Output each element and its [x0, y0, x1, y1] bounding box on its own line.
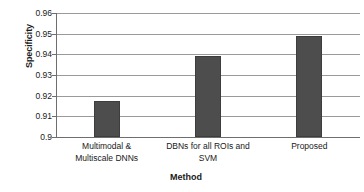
x-axis-category-label-line: Multimodal &: [56, 141, 157, 153]
y-axis-tick-label: 0.9: [24, 133, 52, 142]
y-axis-tick-mark: [52, 75, 56, 76]
bar: [195, 56, 221, 137]
y-axis-tick-mark: [52, 34, 56, 35]
y-axis-tick-label: 0.92: [24, 91, 52, 100]
y-axis-tick-mark: [52, 13, 56, 14]
x-axis-category-label-line: SVM: [157, 153, 258, 165]
y-axis-tick-labels: 0.90.910.920.930.940.950.96: [24, 13, 52, 137]
x-axis-category-label-line: Multiscale DNNs: [56, 153, 157, 165]
y-axis-tick-mark: [52, 137, 56, 138]
x-axis-category-label: Proposed: [259, 141, 360, 153]
y-axis-tick-mark: [52, 96, 56, 97]
x-axis-title: Method: [56, 172, 316, 182]
bar: [94, 101, 120, 137]
y-axis-tick-label: 0.95: [24, 29, 52, 38]
bar: [296, 36, 322, 137]
x-axis-category-label: Multimodal &Multiscale DNNs: [56, 141, 157, 164]
y-axis-tick-label: 0.91: [24, 112, 52, 121]
x-axis-category-label: DBNs for all ROIs andSVM: [157, 141, 258, 164]
y-axis-tick-label: 0.94: [24, 50, 52, 59]
gridline: [56, 137, 360, 138]
y-axis-tick-label: 0.93: [24, 71, 52, 80]
x-axis-category-labels: Multimodal &Multiscale DNNsDBNs for all …: [56, 141, 360, 173]
bar-series: [56, 13, 360, 137]
x-axis-category-label-line: DBNs for all ROIs and: [157, 141, 258, 153]
y-axis-tick-label: 0.96: [24, 9, 52, 18]
bar-chart: Specificity 0.90.910.920.930.940.950.96 …: [0, 0, 364, 192]
x-axis-category-label-line: Proposed: [259, 141, 360, 153]
y-axis-tick-mark: [52, 54, 56, 55]
y-axis-tick-mark: [52, 116, 56, 117]
plot-area: [56, 13, 360, 137]
